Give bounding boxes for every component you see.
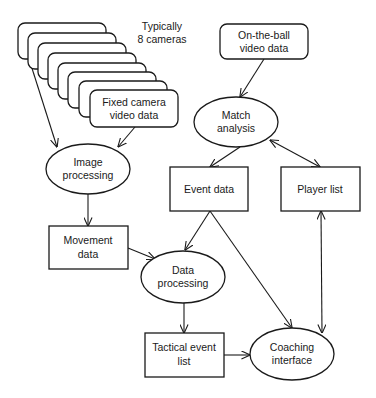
node-fixed-camera: Fixed camera video data (90, 90, 178, 127)
node-on-the-ball: On-the-ball video data (220, 24, 308, 59)
node-label: On-the-ball (238, 29, 290, 41)
node-label: video data (110, 109, 159, 121)
camera-count-label: Typically (142, 20, 183, 32)
camera-stack: Fixed camera video data Typically 8 came… (18, 20, 187, 127)
node-label: Image (73, 156, 102, 168)
data-flow-diagram: Fixed camera video data Typically 8 came… (0, 0, 376, 398)
node-label: Tactical event (152, 341, 216, 353)
node-label: Coaching (270, 341, 315, 353)
node-image-processing: Image processing (46, 144, 130, 194)
node-label: Data (172, 264, 194, 276)
node-label: Movement (63, 234, 112, 246)
node-match-analysis: Match analysis (194, 97, 278, 147)
edge-movement-data-to-data-processing (128, 248, 155, 259)
node-label: list (178, 355, 191, 367)
node-label: Match (222, 109, 251, 121)
node-label: video data (240, 42, 289, 54)
edge-fixed-camera-to-image-processing (118, 127, 135, 147)
edge-player-list-coaching-interface (321, 211, 322, 333)
node-label: Fixed camera (102, 96, 166, 108)
node-movement-data: Movement data (49, 226, 128, 269)
edge-match-analysis-player-list (270, 140, 320, 167)
node-player-list: Player list (281, 167, 360, 211)
node-label: analysis (217, 122, 255, 134)
edge-match-analysis-to-event-data (210, 147, 240, 167)
edge-on-the-ball-to-match-analysis (240, 59, 264, 97)
node-label: interface (272, 354, 312, 366)
node-tactical-event-list: Tactical event list (145, 333, 224, 377)
node-label: data (78, 248, 99, 260)
camera-count-label: 8 cameras (137, 33, 186, 45)
edge-event-data-to-data-processing (185, 211, 210, 250)
node-label: processing (158, 277, 209, 289)
node-data-processing: Data processing (141, 251, 225, 303)
node-label: Event data (184, 183, 234, 195)
node-label: Player list (297, 183, 343, 195)
node-coaching-interface: Coaching interface (250, 328, 334, 380)
node-event-data: Event data (170, 167, 248, 211)
node-label: processing (63, 169, 114, 181)
